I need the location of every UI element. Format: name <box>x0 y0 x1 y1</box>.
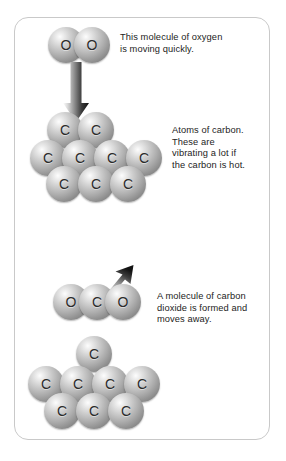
atom-label: C <box>139 151 149 165</box>
atom-label: C <box>73 377 83 391</box>
lattice-bottom-carbon-atom: C <box>108 393 144 429</box>
atom-label: C <box>105 377 115 391</box>
atom-label: C <box>92 295 102 309</box>
atom-label: C <box>57 404 67 418</box>
caption-carbon-dioxide: A molecule of carbon dioxide is formed a… <box>157 291 277 326</box>
atom-label: O <box>66 295 77 309</box>
atom-label: C <box>123 177 133 191</box>
lattice-top-carbon-atom: C <box>110 166 146 202</box>
lattice-bottom-carbon-atom: C <box>44 393 80 429</box>
atom-label: O <box>118 295 129 309</box>
atom-label: O <box>61 38 72 52</box>
atom-label: C <box>89 404 99 418</box>
atom-label: C <box>91 123 101 137</box>
dioxide-oxygen-atom: O <box>105 284 141 320</box>
lattice-bottom-carbon-atom: C <box>76 393 112 429</box>
atom-label: C <box>41 377 51 391</box>
atom-label: C <box>75 151 85 165</box>
atom-label: O <box>87 38 98 52</box>
atom-label: C <box>137 377 147 391</box>
caption-oxygen-molecule: This molecule of oxygen is moving quickl… <box>120 32 270 55</box>
atom-label: C <box>43 151 53 165</box>
diagram-canvas: OO CCCCCCCCC <box>0 0 286 461</box>
atom-label: C <box>91 177 101 191</box>
atom-label: C <box>60 123 70 137</box>
atom-label: C <box>107 151 117 165</box>
lattice-top-carbon-atom: C <box>46 166 82 202</box>
caption-carbon-atoms: Atoms of carbon. These are vibrating a l… <box>172 125 278 171</box>
lattice-top-carbon-atom: C <box>78 166 114 202</box>
atom-label: C <box>121 404 131 418</box>
atom-label: C <box>89 347 99 361</box>
atom-label: C <box>59 177 69 191</box>
oxygen-molecule-oxygen-atom: O <box>74 27 110 63</box>
